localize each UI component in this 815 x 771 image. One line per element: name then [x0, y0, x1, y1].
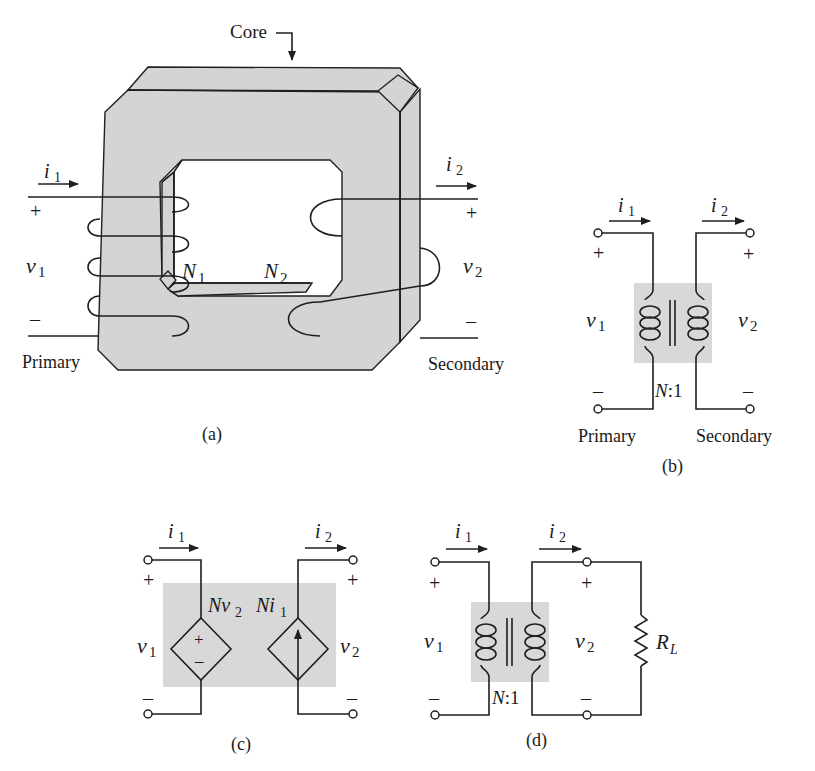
panel-c-dependent-source-model: + – i 1 i 2 + + Nv 2 Ni 1 — [137, 520, 360, 755]
terminal-secondary-plus — [746, 229, 754, 237]
voltage-v2-label: v 2 — [340, 633, 360, 660]
voltage-v2-label: v 2 — [463, 253, 483, 280]
current-i2-label: i 2 — [711, 194, 728, 219]
secondary-minus: – — [346, 687, 358, 709]
svg-text:2: 2 — [587, 639, 595, 655]
turns-ratio-label: N:1 — [654, 380, 682, 401]
current-i1-label: i 1 — [618, 194, 635, 219]
current-i2-label: i 2 — [549, 520, 566, 545]
svg-text:2: 2 — [750, 318, 758, 334]
primary-label: Primary — [22, 352, 80, 372]
svg-text:2: 2 — [235, 605, 242, 620]
primary-label: Primary — [578, 426, 636, 446]
svg-text:2: 2 — [721, 204, 728, 219]
secondary-plus: + — [347, 569, 358, 591]
caption-a: (a) — [202, 424, 222, 445]
primary-plus: + — [30, 200, 41, 222]
secondary-minus: – — [742, 380, 754, 402]
svg-text:N:1: N:1 — [654, 380, 682, 401]
svg-text:1: 1 — [38, 264, 46, 280]
svg-text:1: 1 — [198, 270, 206, 286]
svg-text:1: 1 — [54, 170, 61, 185]
svg-text:1: 1 — [465, 530, 472, 545]
svg-text:v: v — [463, 253, 473, 278]
load-resistor — [635, 615, 647, 666]
terminal-secondary-minus — [583, 711, 591, 719]
primary-plus: + — [143, 569, 154, 591]
svg-text:N: N — [181, 259, 197, 283]
primary-minus: – — [142, 687, 154, 709]
svg-text:v: v — [340, 633, 350, 658]
svg-text:1: 1 — [178, 530, 185, 545]
panel-d-loaded-transformer: i 1 i 2 + + v 1 v 2 R L – – N:1 (d) — [424, 520, 678, 751]
caption-c: (c) — [231, 734, 251, 755]
model-shading — [163, 583, 336, 687]
primary-plus: + — [593, 242, 604, 264]
svg-text:v: v — [26, 253, 36, 278]
voltage-v1-label: v 1 — [26, 253, 46, 280]
svg-text:N:1: N:1 — [491, 687, 519, 708]
terminal-primary-plus — [144, 556, 152, 564]
terminal-primary-plus — [431, 558, 439, 566]
primary-minus: – — [428, 687, 440, 709]
panel-a-physical-transformer: Core i 1 — [22, 21, 504, 445]
secondary-plus: + — [466, 202, 477, 224]
voltage-v2-label: v 2 — [738, 307, 758, 334]
svg-text:2: 2 — [559, 530, 566, 545]
terminal-primary-plus — [594, 229, 602, 237]
svg-text:v: v — [738, 307, 748, 332]
current-i2-label: i 2 — [446, 153, 463, 178]
terminal-primary-minus — [594, 405, 602, 413]
svg-text:i: i — [455, 520, 461, 542]
secondary-minus: – — [465, 310, 477, 332]
transformer-core — [98, 67, 420, 370]
svg-text:Ni: Ni — [255, 594, 275, 616]
primary-minus: – — [29, 308, 41, 330]
svg-text:N: N — [263, 259, 279, 283]
primary-minus: – — [592, 380, 604, 402]
terminal-secondary-minus — [746, 405, 754, 413]
current-i2-label: i 2 — [315, 520, 332, 545]
svg-text:2: 2 — [325, 530, 332, 545]
primary-plus: + — [429, 572, 440, 594]
svg-text:v: v — [575, 628, 585, 653]
voltage-v1-label: v 1 — [137, 633, 157, 660]
svg-text:v: v — [424, 628, 434, 653]
svg-text:i: i — [446, 153, 452, 175]
voltage-v1-label: v 1 — [586, 307, 606, 334]
svg-text:i: i — [168, 520, 174, 542]
load-resistor-label: R L — [655, 630, 678, 657]
secondary-minus: – — [580, 687, 592, 709]
svg-text:R: R — [655, 630, 669, 654]
source-plus: + — [194, 630, 204, 649]
svg-text:L: L — [669, 642, 678, 657]
svg-text:2: 2 — [280, 270, 288, 286]
svg-text:v: v — [586, 307, 596, 332]
source-minus: – — [194, 651, 204, 670]
svg-text:i: i — [44, 160, 50, 182]
terminal-secondary-minus — [349, 710, 357, 718]
svg-text:i: i — [549, 520, 555, 542]
terminal-secondary-plus — [583, 558, 591, 566]
svg-text:1: 1 — [598, 318, 606, 334]
current-i1-label: i 1 — [168, 520, 185, 545]
svg-text:1: 1 — [436, 639, 444, 655]
voltage-v2-label: v 2 — [575, 628, 595, 655]
svg-text:i: i — [711, 194, 717, 216]
svg-text:1: 1 — [149, 644, 157, 660]
svg-text:2: 2 — [475, 264, 483, 280]
transformer-figure: Core i 1 — [0, 0, 815, 771]
secondary-plus: + — [743, 243, 754, 265]
panel-b-circuit-symbol: i 1 i 2 + + v 1 v 2 – – N:1 Primary Seco… — [578, 194, 772, 477]
secondary-label: Secondary — [696, 426, 772, 446]
turns-ratio-label: N:1 — [491, 687, 519, 708]
secondary-plus: + — [581, 572, 592, 594]
terminal-secondary-plus — [349, 556, 357, 564]
svg-text:1: 1 — [280, 605, 287, 620]
svg-text:Nv: Nv — [207, 594, 230, 616]
svg-text:i: i — [315, 520, 321, 542]
svg-text:2: 2 — [456, 163, 463, 178]
svg-text:v: v — [137, 633, 147, 658]
secondary-label: Secondary — [428, 354, 504, 374]
caption-b: (b) — [662, 456, 683, 477]
